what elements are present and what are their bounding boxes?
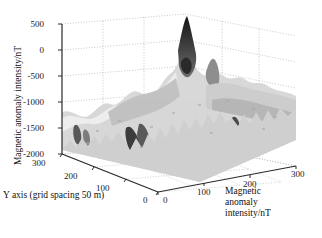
magnetic-anomaly-surface	[62, 16, 296, 188]
y-axis-title: Y axis (grid spacing 50 m)	[3, 190, 104, 201]
x-axis-title: Magnetic anomaly intensity/nT	[225, 186, 295, 219]
x-tick-label-0: 0	[163, 196, 168, 205]
x-tick-label-1: 100	[197, 188, 211, 197]
y-tick-label-0: 300	[32, 159, 46, 168]
y-tick-label-1: 200	[64, 172, 78, 181]
y-tick-label-3: 0	[143, 196, 148, 205]
z-tick-label-0: 500	[10, 20, 44, 29]
z-axis-title: Magnetic anomaly intensity/nT	[13, 30, 24, 180]
figure-3d-surface-plot: 500 0 -500 -1000 -1500 -2000 300 200 100…	[0, 0, 322, 238]
x-tick-label-3: 300	[291, 170, 305, 179]
